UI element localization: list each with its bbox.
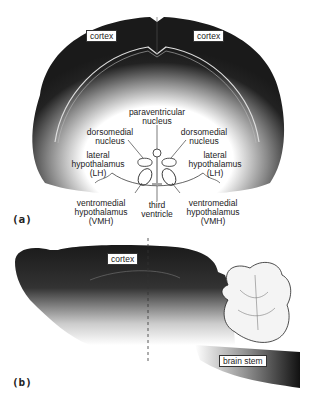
- brain-stem-label: brain stem: [219, 355, 267, 367]
- cortex-sagittal-label: cortex: [107, 253, 138, 265]
- vmh-left-label: ventromedial hypothalamus (VMH): [70, 199, 132, 226]
- lateral-hypothalamus-left-label: lateral hypothalamus (LH): [70, 151, 126, 178]
- dorsomedial-right-label: dorsomedial nucleus: [176, 128, 232, 146]
- third-ventricle-label: third ventricle: [136, 201, 178, 219]
- lateral-hypothalamus-right-label: lateral hypothalamus (LH): [187, 151, 243, 178]
- cortex-right-label: cortex: [193, 30, 224, 42]
- cortex-left-label: cortex: [86, 30, 117, 42]
- panel-a-tag: (a): [12, 213, 32, 226]
- panel-b-tag: (b): [12, 376, 32, 389]
- dorsomedial-left-label: dorsomedial nucleus: [82, 128, 138, 146]
- vmh-right-label: ventromedial hypothalamus (VMH): [182, 199, 244, 226]
- paraventricular-label: paraventricular nucleus: [125, 108, 189, 126]
